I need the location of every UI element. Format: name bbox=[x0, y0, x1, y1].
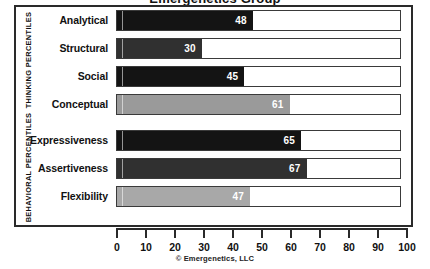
bar-rows: Analytical48Structural30Social45Conceptu… bbox=[30, 9, 409, 223]
bar-value-label: 45 bbox=[227, 71, 245, 82]
bar-origin-rule bbox=[122, 159, 123, 178]
x-axis-tick bbox=[116, 228, 118, 238]
bar-origin-rule bbox=[122, 11, 123, 30]
x-axis-tick bbox=[406, 228, 408, 238]
bar-fill: 65 bbox=[117, 131, 301, 150]
bar-fill: 48 bbox=[117, 11, 253, 30]
bar-fill: 67 bbox=[117, 159, 307, 178]
bar-value-label: 30 bbox=[184, 43, 202, 54]
bar-value-label: 48 bbox=[235, 15, 253, 26]
x-axis-tick-label: 80 bbox=[343, 241, 355, 253]
bar-row-label: Conceptual bbox=[30, 98, 116, 110]
x-axis-tick-label: 100 bbox=[398, 241, 416, 253]
bar-row: Assertiveness67 bbox=[30, 157, 409, 179]
x-axis-tick bbox=[319, 228, 321, 238]
bar-value-label: 67 bbox=[289, 163, 307, 174]
bar-track: 65 bbox=[116, 130, 401, 151]
x-axis-tick-label: 90 bbox=[372, 241, 384, 253]
bar-row-label: Assertiveness bbox=[30, 162, 116, 174]
bar-fill: 45 bbox=[117, 67, 244, 86]
bar-origin-rule bbox=[122, 131, 123, 150]
bar-track: 67 bbox=[116, 158, 401, 179]
bar-row: Expressiveness65 bbox=[30, 129, 409, 151]
emergenetics-percentile-chart: Emergenetics Group THINKING PERCENTILES … bbox=[0, 0, 430, 269]
bar-origin-rule bbox=[122, 67, 123, 86]
x-axis-tick-label: 60 bbox=[285, 241, 297, 253]
copyright-notice: © Emergenetics, LLC bbox=[0, 254, 430, 263]
bar-row: Conceptual61 bbox=[30, 93, 409, 115]
x-axis-tick bbox=[232, 228, 234, 238]
x-axis-tick-label: 20 bbox=[169, 241, 181, 253]
bar-row-label: Flexibility bbox=[30, 190, 116, 202]
bar-row-label: Social bbox=[30, 70, 116, 82]
x-axis: 0102030405060708090100 bbox=[116, 228, 408, 240]
bar-fill: 61 bbox=[117, 95, 290, 114]
bar-row: Flexibility47 bbox=[30, 185, 409, 207]
bar-value-label: 47 bbox=[232, 191, 250, 202]
bar-value-label: 61 bbox=[272, 99, 290, 110]
bar-track: 48 bbox=[116, 10, 401, 31]
bar-row-label: Analytical bbox=[30, 14, 116, 26]
x-axis-tick bbox=[174, 228, 176, 238]
x-axis-tick bbox=[290, 228, 292, 238]
bar-row: Analytical48 bbox=[30, 9, 409, 31]
x-axis-tick-label: 50 bbox=[256, 241, 268, 253]
x-axis-tick-label: 0 bbox=[114, 241, 120, 253]
bar-origin-rule bbox=[122, 39, 123, 58]
bar-origin-rule bbox=[122, 187, 123, 206]
bar-origin-rule bbox=[122, 95, 123, 114]
bar-track: 61 bbox=[116, 94, 401, 115]
bar-row: Social45 bbox=[30, 65, 409, 87]
bar-track: 30 bbox=[116, 38, 401, 59]
bar-row-label: Expressiveness bbox=[30, 134, 116, 146]
x-axis-tick bbox=[348, 228, 350, 238]
x-axis-tick-label: 70 bbox=[314, 241, 326, 253]
x-axis-tick-label: 10 bbox=[140, 241, 152, 253]
bar-fill: 47 bbox=[117, 187, 250, 206]
bar-track: 47 bbox=[116, 186, 401, 207]
bar-fill: 30 bbox=[117, 39, 202, 58]
x-axis-tick-label: 40 bbox=[227, 241, 239, 253]
x-axis-tick bbox=[145, 228, 147, 238]
bar-value-label: 65 bbox=[283, 135, 301, 146]
x-axis-tick bbox=[261, 228, 263, 238]
x-axis-tick bbox=[203, 228, 205, 238]
bar-row-label: Structural bbox=[30, 42, 116, 54]
bar-track: 45 bbox=[116, 66, 401, 87]
bar-row: Structural30 bbox=[30, 37, 409, 59]
x-axis-tick-label: 30 bbox=[198, 241, 210, 253]
x-axis-tick bbox=[377, 228, 379, 238]
